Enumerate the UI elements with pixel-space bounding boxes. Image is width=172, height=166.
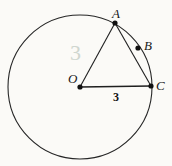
geometry-canvas — [0, 0, 172, 166]
point-a-dot — [112, 20, 117, 25]
watermark-digit: 3 — [70, 42, 81, 64]
point-o-dot — [77, 84, 82, 89]
point-label-o: O — [68, 72, 77, 85]
point-label-c: C — [156, 79, 165, 92]
radius-length-label: 3 — [113, 91, 119, 103]
point-label-a: A — [112, 7, 120, 20]
segment-ac — [115, 23, 151, 86]
point-c-dot — [148, 83, 153, 88]
segment-oa — [80, 23, 115, 87]
geometry-figure: 3 A B C O 3 — [0, 0, 172, 166]
segment-oc — [80, 86, 151, 87]
point-b-dot — [135, 45, 140, 50]
point-label-b: B — [144, 39, 152, 52]
